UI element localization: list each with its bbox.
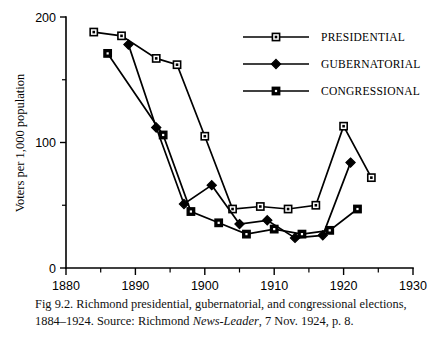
line-chart: 0100200 188018901900191019201930 Voters … [0,0,437,292]
marker-open-square-center [315,204,318,207]
marker-filled-square-center [273,228,275,230]
marker-filled-diamond [346,158,355,167]
marker-filled-diamond [271,59,280,68]
marker-filled-square-center [329,229,331,231]
legend-label: GUBERNATORIAL [321,58,421,70]
marker-filled-square-center [162,134,164,136]
marker-open-square-center [231,208,234,211]
marker-open-square-center [259,205,262,208]
legend-item-presidential: PRESIDENTIAL [243,31,405,43]
marker-open-square-center [370,176,373,179]
marker-filled-square-center [245,233,247,235]
x-tick-label: 1880 [52,279,80,292]
marker-open-square-center [287,208,290,211]
marker-filled-square-center [218,222,220,224]
series-gubernatorial [124,40,355,242]
x-axis-ticks [66,268,413,275]
figure-caption: Fig 9.2. Richmond presidential, gubernat… [35,296,407,329]
legend-item-congressional: CONGRESSIONAL [243,85,420,97]
caption-source-title: News-Leader [193,314,259,328]
legend-label: PRESIDENTIAL [321,31,405,43]
marker-open-square-center [120,35,123,38]
marker-filled-square-center [107,52,109,54]
marker-filled-square-center [356,208,358,210]
caption-suffix: , 7 Nov. 1924, p. 8. [259,314,354,328]
y-tick-label: 100 [35,136,56,150]
y-tick-label: 0 [49,262,56,276]
marker-open-square-center [176,63,179,66]
marker-open-square-center [155,57,158,60]
marker-open-square-center [275,36,278,39]
y-axis-ticks [60,17,66,268]
marker-open-square-center [342,125,345,128]
y-axis-tick-labels: 0100200 [35,11,56,276]
y-axis-title: Voters per 1,000 population [13,73,27,212]
legend-label: CONGRESSIONAL [321,85,420,97]
x-tick-label: 1920 [330,279,358,292]
x-tick-label: 1910 [260,279,288,292]
marker-open-square-center [92,31,95,34]
y-tick-label: 200 [35,11,56,25]
marker-filled-square-center [190,210,192,212]
legend-item-gubernatorial: GUBERNATORIAL [243,58,421,70]
x-tick-label: 1900 [191,279,219,292]
chart-figure: 0100200 188018901900191019201930 Voters … [0,0,437,292]
x-axis-tick-labels: 188018901900191019201930 [52,279,427,292]
figure-page: 0100200 188018901900191019201930 Voters … [0,0,437,357]
marker-filled-square-center [275,90,277,92]
marker-filled-square-center [301,233,303,235]
x-tick-label: 1890 [121,279,149,292]
marker-open-square-center [204,135,207,138]
chart-legend: PRESIDENTIALGUBERNATORIALCONGRESSIONAL [243,31,421,97]
marker-filled-diamond [263,216,272,225]
x-tick-label: 1930 [399,279,427,292]
marker-filled-diamond [124,40,133,49]
